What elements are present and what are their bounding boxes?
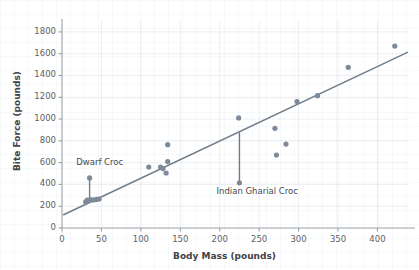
- axis-lines: [59, 19, 416, 232]
- data-point: [272, 126, 277, 131]
- y-tick-label-1600: 1600: [34, 48, 56, 58]
- data-point: [346, 65, 351, 70]
- y-tick-label-600: 600: [40, 157, 56, 167]
- data-point: [146, 164, 151, 169]
- data-point: [87, 175, 92, 180]
- data-point: [160, 166, 165, 171]
- x-tick-label-150: 150: [160, 234, 200, 244]
- annotation-label-1: Indian Gharial Croc: [217, 186, 298, 196]
- y-tick-label-200: 200: [40, 200, 56, 210]
- y-tick-label-0: 0: [51, 222, 56, 232]
- y-tick-label-1400: 1400: [34, 69, 56, 79]
- data-point: [294, 99, 299, 104]
- data-point: [96, 196, 101, 201]
- data-point: [315, 93, 320, 98]
- x-tick-label-350: 350: [318, 234, 358, 244]
- data-point: [164, 170, 169, 175]
- annotation-label-0: Dwarf Croc: [76, 157, 123, 167]
- scatter-plot-svg: [0, 0, 419, 270]
- x-tick-label-250: 250: [239, 234, 279, 244]
- gridlines: [62, 21, 409, 228]
- y-tick-label-1200: 1200: [34, 91, 56, 101]
- data-point: [237, 180, 242, 185]
- data-point: [274, 152, 279, 157]
- y-tick-label-400: 400: [40, 178, 56, 188]
- x-tick-label-100: 100: [121, 234, 161, 244]
- y-tick-label-1800: 1800: [34, 26, 56, 36]
- data-point: [165, 159, 170, 164]
- data-point: [392, 43, 397, 48]
- x-tick-label-50: 50: [81, 234, 121, 244]
- y-tick-label-800: 800: [40, 135, 56, 145]
- x-tick-label-0: 0: [42, 234, 82, 244]
- x-tick-label-400: 400: [357, 234, 397, 244]
- chart-container: 0200400600800100012001400160018000501001…: [0, 0, 419, 270]
- x-axis-title: Body Mass (pounds): [0, 251, 419, 261]
- data-point: [283, 142, 288, 147]
- x-tick-label-300: 300: [279, 234, 319, 244]
- y-tick-label-1000: 1000: [34, 113, 56, 123]
- data-point: [236, 115, 241, 120]
- x-tick-label-200: 200: [200, 234, 240, 244]
- y-axis-title: Bite Force (pounds): [12, 71, 22, 171]
- data-point: [165, 142, 170, 147]
- data-points: [83, 43, 397, 204]
